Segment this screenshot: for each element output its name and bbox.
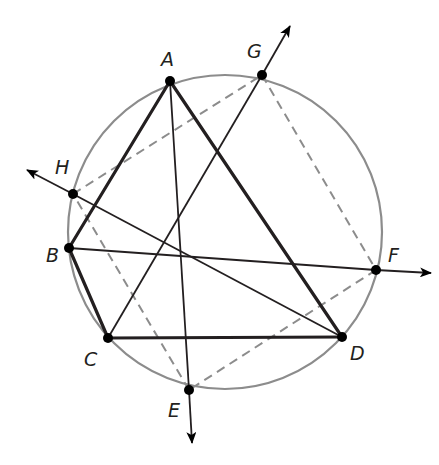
ray-arrow-AE (189, 390, 192, 443)
label-G: G (247, 40, 262, 62)
point-E (184, 385, 194, 395)
ray-arrow-CG (262, 26, 290, 75)
point-D (337, 332, 347, 342)
label-B: B (46, 244, 59, 266)
ray-arrows (27, 26, 431, 443)
label-C: C (84, 348, 98, 370)
point-C (103, 333, 113, 343)
label-H: H (55, 156, 69, 178)
side-BC (69, 248, 108, 338)
triangle-quadrilateral-ABCD (69, 81, 342, 338)
point-B (64, 243, 74, 253)
circumscribed-circle (68, 75, 382, 389)
segment-CG (108, 75, 262, 338)
label-D: D (350, 342, 365, 364)
point-labels: AGHBFCDE (46, 40, 400, 421)
point-G (257, 70, 267, 80)
dashed-rectangle-HGFE (73, 75, 376, 390)
point-F (371, 265, 381, 275)
side-CD (108, 337, 342, 338)
ray-arrow-BF (376, 270, 431, 273)
side-DA (170, 81, 342, 337)
point-H (68, 189, 78, 199)
point-A (165, 76, 175, 86)
label-F: F (388, 244, 400, 266)
label-E: E (168, 399, 180, 421)
circle-outline (68, 75, 382, 389)
label-A: A (159, 48, 174, 70)
geometry-diagram: AGHBFCDE (0, 0, 439, 465)
